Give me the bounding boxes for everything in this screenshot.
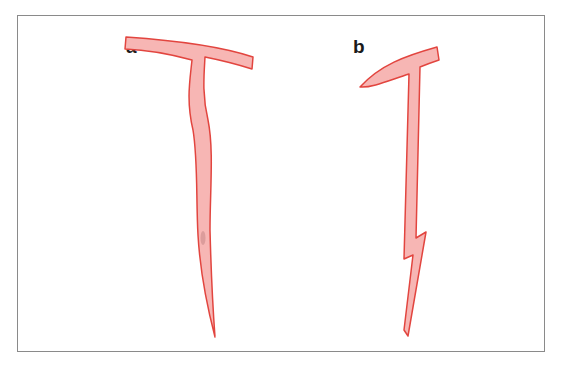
diagram-canvas <box>0 0 563 365</box>
panel-a-shape <box>125 37 253 337</box>
panel-b-shape <box>360 47 439 336</box>
